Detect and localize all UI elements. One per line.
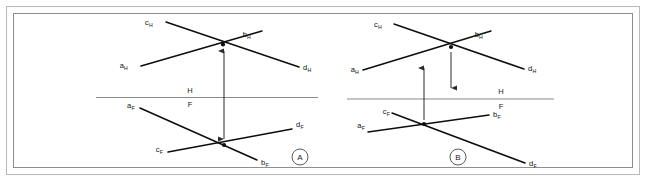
figure-inner-frame — [14, 14, 633, 168]
figure-outer-frame — [7, 7, 640, 175]
panel-a-label-d-h: dH — [303, 63, 311, 73]
figure-root: cH bH aH dH aF dF cF bF H F A — [0, 0, 646, 181]
panel-a-h-crossing-point — [221, 42, 225, 46]
panel-b-f-line-ab — [368, 115, 489, 132]
panel-b-label-c-h: cH — [374, 20, 382, 30]
panel-b-label-d-f: dF — [529, 159, 537, 169]
panel-b-label-b-f: bF — [493, 110, 501, 120]
panel-a-label-c-h: cH — [145, 18, 153, 28]
panel-b: cH bH aH dH cF bF aF dF H F B — [347, 20, 554, 169]
panel-b-label-b-h: bH — [475, 30, 483, 40]
panel-b-label-c-f: cF — [383, 107, 390, 117]
panel-a: cH bH aH dH aF dF cF bF H F A — [96, 18, 318, 168]
panel-a-f-crossing-point — [222, 143, 226, 147]
panel-b-badge-label: B — [455, 153, 460, 162]
panel-b-label-d-h: dH — [528, 64, 536, 74]
panel-a-plane-label-f: F — [188, 100, 193, 109]
geometry-diagram: cH bH aH dH aF dF cF bF H F A — [0, 0, 646, 181]
panel-a-plane-label-h: H — [187, 86, 192, 95]
panel-a-h-line-cd — [166, 22, 299, 67]
panel-a-label-a-f: aF — [127, 101, 135, 111]
panel-a-label-c-f: cF — [156, 145, 163, 155]
panel-b-h-line-cd — [394, 24, 524, 69]
panel-b-plane-label-f: F — [499, 102, 504, 111]
panel-b-plane-label-h: H — [498, 87, 503, 96]
panel-b-label-a-f: aF — [357, 121, 365, 131]
panel-b-label-a-h: aH — [351, 65, 359, 75]
panel-a-label-b-f: bF — [261, 158, 269, 168]
panel-a-badge-label: A — [297, 153, 303, 162]
panel-b-h-crossing-point — [449, 45, 453, 49]
panel-a-label-b-h: bH — [243, 30, 251, 40]
panel-a-label-d-f: dF — [296, 120, 304, 130]
panel-b-f-crossing-point — [422, 122, 426, 126]
panel-a-label-a-h: aH — [120, 61, 128, 71]
